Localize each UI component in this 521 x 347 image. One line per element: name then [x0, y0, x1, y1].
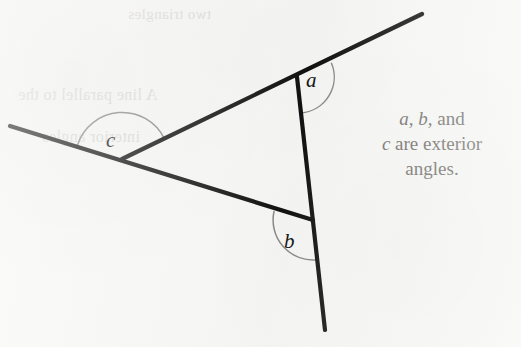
angle-label-a: a: [306, 70, 317, 91]
caption-line-2: c are exterior: [352, 131, 512, 156]
caption-line-1-rest: and: [433, 108, 465, 129]
caption: a, b, and c are exterior angles.: [352, 106, 512, 181]
caption-line-2-rest: are exterior: [390, 133, 482, 154]
angle-arc-c: [77, 112, 164, 145]
ray-a-to-b-extended: [297, 77, 325, 330]
angle-label-b: b: [284, 231, 295, 252]
caption-line-3: angles.: [352, 156, 512, 181]
angle-label-c: c: [106, 130, 115, 151]
caption-line-1: a, b, and: [352, 106, 512, 131]
caption-vars-ab: a, b,: [399, 108, 432, 129]
figure-canvas: two triangles A line parallel to the int…: [0, 0, 521, 347]
